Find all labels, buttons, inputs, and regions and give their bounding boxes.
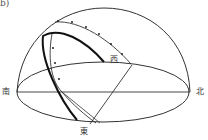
hemisphere-svg — [0, 0, 208, 140]
celestial-hemisphere-diagram: b) 南 北 東 西 — [0, 0, 208, 140]
north-label: 北 — [196, 88, 204, 96]
south-label: 南 — [2, 88, 10, 96]
panel-label: b) — [0, 0, 9, 8]
dotted-sun-path — [55, 22, 131, 64]
east-west-line — [90, 65, 132, 124]
east-label: 東 — [80, 128, 88, 136]
west-label: 西 — [110, 56, 118, 64]
thick-sun-path — [43, 33, 104, 120]
